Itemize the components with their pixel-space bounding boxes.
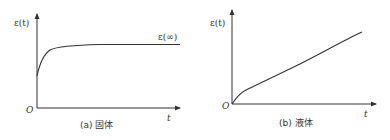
caption-b: (b) 液体 xyxy=(279,117,313,128)
caption-a: (a) 固体 xyxy=(80,119,113,130)
curve-liquid xyxy=(232,32,362,104)
panel-a-solid: ε(t) O t ε(∞) (a) 固体 xyxy=(14,14,180,130)
figure-canvas: ε(t) O t ε(∞) (a) 固体 ε(t) O t (b) 液体 xyxy=(0,0,390,140)
epsilon-infinity-annotation: ε(∞) xyxy=(158,32,177,42)
panel-b-liquid: ε(t) O t (b) 液体 xyxy=(210,10,376,128)
x-axis-label-a: t xyxy=(167,113,171,123)
x-axis-label-b: t xyxy=(364,109,368,119)
origin-label-b: O xyxy=(222,101,230,111)
curve-solid xyxy=(37,45,180,77)
y-axis-label-b: ε(t) xyxy=(210,18,225,28)
y-axis-label-a: ε(t) xyxy=(14,18,29,28)
origin-label-a: O xyxy=(26,105,34,115)
